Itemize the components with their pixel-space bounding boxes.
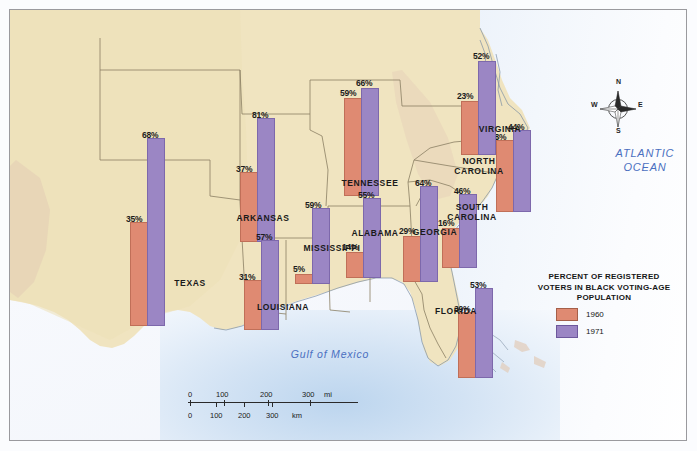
atlantic-ocean-label: ATLANTIC OCEAN <box>595 146 687 174</box>
bar-virginia-1971 <box>478 61 496 155</box>
bar-texas-1971 <box>147 138 165 326</box>
scale-miles-labels: 0 100 200 300 mi <box>188 390 358 401</box>
bar-florida-1971 <box>475 288 493 378</box>
atlantic-ocean-line1: ATLANTIC <box>595 146 687 160</box>
scale-mi-200: 200 <box>260 390 273 399</box>
scale-km-200: 200 <box>238 411 251 420</box>
bar-label-texas-1960: 35% <box>126 214 142 224</box>
compass-east-label: E <box>638 101 643 108</box>
scale-tick-km-100 <box>216 402 217 407</box>
state-label-tennessee: TENNESSEE <box>330 178 410 188</box>
state-label-louisiana: LOUISIANA <box>244 302 322 312</box>
legend-label-1960: 1960 <box>586 310 604 319</box>
compass-rose: N E S W <box>588 78 648 140</box>
bar-label-louisiana-1960: 31% <box>239 272 255 282</box>
bar-florida-1960 <box>458 312 476 378</box>
bar-label-south-carolina-1971: 46% <box>454 186 470 196</box>
scale-km-100: 100 <box>210 411 223 420</box>
scale-mi-unit: mi <box>324 390 332 399</box>
legend-entry-1971: 1971 <box>518 325 687 338</box>
scale-bar: 0 100 200 300 mi 0 100 200 300 km <box>188 390 358 422</box>
map-legend: PERCENT OF REGISTERED VOTERS IN BLACK VO… <box>518 272 687 338</box>
legend-swatch-1971 <box>556 325 578 338</box>
state-label-florida: FLORIDA <box>424 306 488 316</box>
legend-title-line3: POPULATION <box>518 293 687 304</box>
bar-label-tennessee-1971: 66% <box>356 78 372 88</box>
state-label-arkansas: ARKANSAS <box>225 213 301 223</box>
bar-alabama-1971 <box>363 198 381 278</box>
legend-title-line1: PERCENT OF REGISTERED <box>518 272 687 283</box>
scale-mi-100: 100 <box>216 390 229 399</box>
bar-label-mississippi-1971: 59% <box>305 200 321 210</box>
bar-pair-alabama: 14% 55% <box>346 200 380 278</box>
scale-tick-mi-300 <box>310 400 311 406</box>
scale-tick-mi-200 <box>268 400 269 406</box>
state-label-alabama: ALABAMA <box>340 228 410 238</box>
scale-mi-0: 0 <box>188 390 192 399</box>
state-label-texas: TEXAS <box>150 278 230 288</box>
bar-texas-1960 <box>130 222 148 326</box>
compass-south-label: S <box>616 127 621 134</box>
scale-tick-mi-100 <box>224 400 225 406</box>
bar-arkansas-1971 <box>257 118 275 242</box>
bar-label-tennessee-1960: 59% <box>340 88 356 98</box>
legend-label-1971: 1971 <box>586 327 604 336</box>
legend-title-line2: VOTERS IN BLACK VOTING-AGE <box>518 283 687 294</box>
legend-entry-1960: 1960 <box>518 308 687 321</box>
compass-west-label: W <box>591 101 598 108</box>
bar-label-florida-1971: 53% <box>470 280 486 290</box>
scale-km-0: 0 <box>188 411 192 420</box>
legend-swatch-1960 <box>556 308 578 321</box>
bar-label-virginia-1960: 23% <box>457 91 473 101</box>
scale-tick-0 <box>190 400 191 406</box>
state-label-georgia: GEORGIA <box>402 227 468 237</box>
atlantic-ocean-line2: OCEAN <box>595 160 687 174</box>
bar-georgia-1960 <box>403 236 421 282</box>
map-figure: 35% 68% 37% 81% 31% 57% 5% 59% 5 <box>0 0 697 451</box>
scale-mi-300: 300 <box>302 390 315 399</box>
scale-tick-km-200 <box>244 402 245 407</box>
scale-tick-km-300 <box>272 402 273 407</box>
map-frame: 35% 68% 37% 81% 31% 57% 5% 59% 5 <box>9 9 687 441</box>
scale-kilometers-labels: 0 100 200 300 km <box>188 411 358 422</box>
state-label-south-carolina: SOUTH CAROLINA <box>437 202 507 222</box>
bar-label-louisiana-1971: 57% <box>256 232 272 242</box>
bar-pair-florida: 39% 53% <box>458 290 492 378</box>
scale-km-300: 300 <box>266 411 279 420</box>
scale-line <box>188 402 358 410</box>
legend-title: PERCENT OF REGISTERED VOTERS IN BLACK VO… <box>518 272 687 304</box>
bar-label-alabama-1971: 55% <box>358 190 374 200</box>
bar-label-texas-1971: 68% <box>142 130 158 140</box>
bar-pair-louisiana: 31% 57% <box>244 242 278 330</box>
bar-pair-virginia: 23% 52% <box>461 63 495 155</box>
gulf-of-mexico-label: Gulf of Mexico <box>265 347 395 361</box>
scale-km-unit: km <box>292 411 302 420</box>
bar-label-arkansas-1960: 37% <box>236 164 252 174</box>
compass-north-label: N <box>616 78 621 85</box>
bar-louisiana-1971 <box>261 240 279 330</box>
state-label-north-carolina: NORTH CAROLINA <box>443 156 515 176</box>
bar-pair-arkansas: 37% 81% <box>240 120 274 242</box>
bar-alabama-1960 <box>346 252 364 278</box>
bar-north-carolina-1971 <box>513 130 531 212</box>
state-label-mississippi: MISSISSIPPI <box>292 243 372 253</box>
state-label-virginia: VIRGINIA <box>465 124 535 134</box>
bar-label-virginia-1971: 52% <box>473 51 489 61</box>
bar-mississippi-1960 <box>295 274 313 284</box>
bar-label-mississippi-1960: 5% <box>293 264 305 274</box>
bar-label-georgia-1971: 64% <box>415 178 431 188</box>
bar-label-arkansas-1971: 81% <box>252 110 268 120</box>
bar-pair-texas: 35% 68% <box>130 140 164 326</box>
